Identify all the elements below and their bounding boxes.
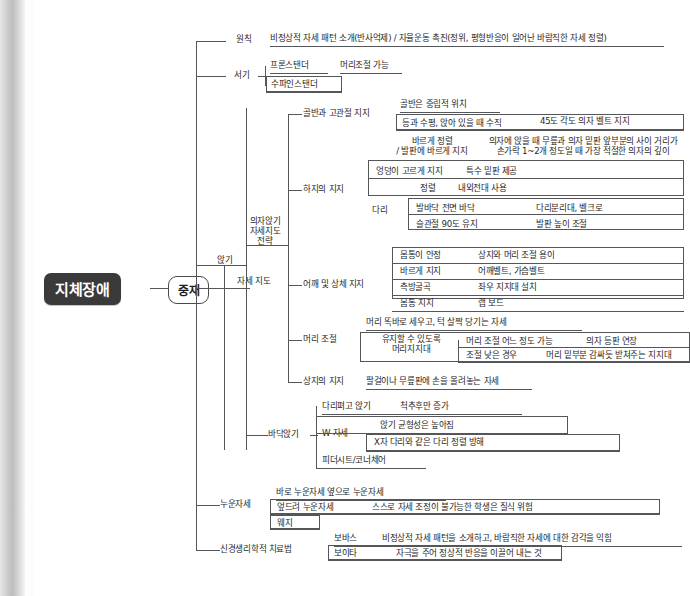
머리지지대-line1: 유지할 수 있도록 bbox=[366, 334, 456, 344]
rule-어깨-row0 bbox=[392, 263, 684, 264]
branch-label-자세지도-text: 자세 지도 bbox=[237, 276, 270, 286]
edge-to-하지 bbox=[288, 190, 302, 191]
node-골반-row1-right: 45도 각도 의자 벨트 지지 bbox=[540, 116, 690, 127]
node-머리조절-label[interactable]: 머리 조절 bbox=[303, 334, 359, 345]
rule-수파인스탠더 bbox=[266, 92, 342, 93]
node-바닥-row0-right: 척추후만 증가 bbox=[400, 401, 449, 412]
rule-다리-row0 bbox=[408, 214, 684, 215]
node-골반-row2-left: 바르게 정렬 / 발판에 바르게 지지 bbox=[386, 136, 478, 156]
trunk-vertical-line bbox=[196, 41, 197, 550]
골반-row2-left-line1: 바르게 정렬 bbox=[386, 136, 478, 146]
node-어깨-row3-right: 랩 보드 bbox=[478, 298, 658, 309]
branch-label-자세지도: 자세 지도 bbox=[236, 276, 272, 287]
node-W자세-row1: X자 다리와 같은 다리 정렬 방해 bbox=[374, 437, 594, 448]
node-어깨-row2-left: 측방굴곡 bbox=[400, 282, 470, 293]
node-서기-label[interactable]: 서기 bbox=[222, 70, 262, 81]
edge-root-to-중재 bbox=[150, 288, 168, 289]
골반-row2-left-line2: / 발판에 바르게 지지 bbox=[386, 146, 478, 156]
rule-어깨-row3 bbox=[392, 311, 684, 312]
rule-어깨-row1 bbox=[392, 279, 684, 280]
edge-to-골반 bbox=[288, 114, 302, 115]
node-머리-row0-right: 의자 등판 연장 bbox=[586, 336, 690, 347]
edge-앉기-vertical bbox=[224, 265, 225, 450]
node-골반-row2-right: 의자에 앉을 때 무릎과 의자 밑판 앞부분의 사이 거리가 손가락 1~2개 … bbox=[480, 136, 686, 156]
edge-to-바닥앉기 bbox=[246, 435, 268, 436]
node-원칙-label[interactable]: 원칙 bbox=[226, 34, 262, 45]
edge-to-상지 bbox=[288, 382, 302, 383]
node-보바스-right: 비정상적 자세 패턴을 소개하고, 바람직한 자세에 대한 감각을 익힘 bbox=[382, 533, 612, 544]
node-어깨-row1-left: 바르게 지지 bbox=[400, 266, 470, 277]
node-웨지[interactable]: 웨지 bbox=[277, 518, 317, 529]
node-프론스탠더[interactable]: 프론스탠더 bbox=[270, 60, 328, 74]
node-상지의지지-label[interactable]: 상지의 지지 bbox=[303, 376, 361, 387]
root-node[interactable]: 지체장애 bbox=[44, 273, 121, 305]
node-머리-row1-right: 머리 밑부분 감싸듯 받쳐주는 지지대 bbox=[546, 350, 690, 361]
edge-앉기-children-vertical bbox=[246, 108, 247, 450]
edge-to-신경생리 bbox=[196, 550, 220, 551]
rule-머리-row0 bbox=[458, 347, 690, 348]
node-누운자세-row0-left: 엎드려 누운자세 bbox=[277, 502, 357, 513]
node-원칙-text: 비정상적 자세 패턴 소개(반사억제) / 자율운동 촉진(정위, 평형반응이 … bbox=[270, 33, 664, 47]
edge-to-원칙 bbox=[196, 41, 226, 42]
node-수파인스탠더-text: 수파인스탠더 bbox=[271, 77, 341, 90]
node-프론스탠더-detail: 머리조절 가능 bbox=[340, 60, 402, 74]
node-하지의지지-label[interactable]: 하지의 지지 bbox=[303, 184, 367, 195]
edge-chair-strategy-join bbox=[246, 245, 288, 246]
node-바닥앉기-label[interactable]: 바닥앉기 bbox=[268, 429, 314, 440]
node-골반-row0-left: 골반은 중립적 위치 bbox=[400, 99, 500, 113]
node-다리-row1-left: 슬관절 90도 유지 bbox=[416, 219, 526, 230]
node-수파인스탠더-box[interactable]: 수파인스탠더 bbox=[266, 76, 342, 92]
node-보바스-left: 보바스 bbox=[334, 533, 382, 544]
node-하지-row0-left: 엉덩이 고르게 지지 bbox=[376, 166, 480, 177]
node-어깨-row1-right: 어깨벨트, 가슴벨트 bbox=[478, 266, 658, 277]
rule-피더시트 bbox=[316, 468, 426, 469]
node-하지-row1-right: 내외전대 사용 bbox=[458, 183, 578, 194]
node-신경생리학적치료법-label[interactable]: 신경생리학적 치료법 bbox=[220, 544, 304, 555]
edge-to-누운자세 bbox=[196, 505, 220, 506]
node-다리-row1-right: 발판 높이 조절 bbox=[536, 219, 656, 230]
edge-trunk-spine bbox=[196, 288, 250, 289]
node-하지-row0-right: 특수 밑판 제공 bbox=[466, 166, 586, 177]
edge-to-머리조절 bbox=[288, 340, 302, 341]
edge-to-어깨 bbox=[288, 285, 302, 286]
node-누운자세-label[interactable]: 누운자세 bbox=[220, 499, 266, 510]
rule-웨지 bbox=[270, 529, 320, 530]
node-머리지지대-label: 유지할 수 있도록 머리지지대 bbox=[366, 334, 456, 354]
의자앉기전략-line2: 자세지도 bbox=[243, 226, 287, 236]
node-보이타-left: 보이타 bbox=[334, 548, 378, 559]
rule-누운자세-row0 bbox=[270, 514, 660, 515]
node-바닥-row0-left: 다리펴고 앉기 bbox=[322, 401, 400, 412]
의자앉기전략-line1: 의자앉기 bbox=[243, 216, 287, 226]
node-상지의지지-detail: 팔걸이나 무릎판에 손을 올려놓는 자세 bbox=[366, 376, 532, 390]
머리지지대-line2: 머리지지대 bbox=[366, 344, 456, 354]
node-다리-row0-right: 다리분리대, 벨크로 bbox=[536, 203, 676, 214]
page-edge-shadow bbox=[0, 0, 26, 596]
edge-앉기-spine bbox=[224, 265, 246, 266]
page-edge-gradient bbox=[26, 0, 36, 596]
node-다리-label[interactable]: 다리 bbox=[372, 205, 406, 216]
rule-어깨-row2 bbox=[392, 295, 684, 296]
node-바닥앉기-row0: 다리펴고 앉기척추후만 증가 bbox=[322, 401, 522, 415]
node-중재[interactable]: 중재 bbox=[168, 276, 209, 304]
node-다리-row0-left: 발바닥 전면 바닥 bbox=[416, 203, 526, 214]
node-어깨-row0-right: 상지와 머리 조절 용이 bbox=[478, 250, 658, 261]
node-머리조절-top-text: 머리 똑바로 세우고, 턱 살짝 당기는 자세 bbox=[366, 317, 582, 331]
edge-chair-categories-vertical bbox=[288, 114, 289, 382]
rule-골반-row1 bbox=[396, 130, 684, 131]
node-어깨및상체지지-label[interactable]: 어깨 및 상체 지지 bbox=[303, 279, 389, 290]
node-W자세-row0: 앉기 균형성은 높아짐 bbox=[380, 420, 560, 431]
node-어깨-row3-left: 몸통 지지 bbox=[400, 298, 470, 309]
node-어깨-row2-right: 좌우 지지대 설치 bbox=[478, 282, 658, 293]
rule-보이타 bbox=[328, 560, 562, 561]
node-보이타-right: 자극을 주어 정상적 반응을 이끌어 내는 것 bbox=[396, 548, 576, 559]
rule-W자세-row1 bbox=[366, 451, 620, 452]
rule-머리-row1 bbox=[458, 362, 690, 363]
mindmap-canvas: 지체장애 중재 자세 지도 원칙 비정상적 자세 패턴 소개(반사억제) / 자… bbox=[0, 0, 690, 596]
node-피더시트코너체어[interactable]: 피더시트/코너체어 bbox=[322, 455, 426, 469]
node-누운자세-row0-right: 스스로 자세 조정이 불가능한 학생은 질식 위험 bbox=[372, 502, 652, 513]
node-의자앉기전략-label[interactable]: 의자앉기 자세지도 전략 bbox=[243, 216, 287, 246]
rule-하지-row0 bbox=[368, 178, 684, 179]
node-어깨-row0-left: 몸통이 안정 bbox=[400, 250, 470, 261]
골반-row2-right-line1: 의자에 앉을 때 무릎과 의자 밑판 앞부분의 사이 거리가 bbox=[480, 136, 686, 146]
node-골반과고관절지지-label[interactable]: 골반과 고관절 지지 bbox=[303, 108, 397, 119]
